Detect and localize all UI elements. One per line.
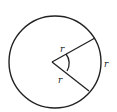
arc-length-label: r xyxy=(104,59,109,69)
lower-radius-label: r xyxy=(58,75,63,85)
upper-radius-line xyxy=(52,38,95,62)
upper-radius-label: r xyxy=(60,44,65,54)
circle xyxy=(9,16,101,108)
radian-diagram: r r r xyxy=(0,0,117,112)
angle-arc-marker xyxy=(66,54,69,71)
